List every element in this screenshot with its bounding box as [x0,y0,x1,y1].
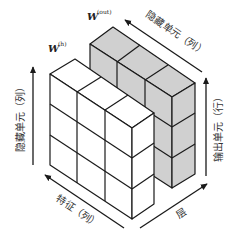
hidden-units-vertical-label: 隐藏单元（列） [14,82,26,152]
hidden-weight-superscript: (h) [58,40,67,47]
weight-cube-diagram: W (h) W (out) 隐藏单元（列） 隐藏单元（列） 输出单元（行） 特征… [0,0,241,244]
output-weight-label: W (out) [87,8,112,22]
hidden-units-diagonal-label: 隐藏单元（列） [144,8,209,57]
layers-label: 层 [174,206,188,221]
output-weight-superscript: (out) [97,8,112,15]
output-units-label: 输出单元（行） [212,92,224,162]
output-block-side-face [172,83,195,188]
hidden-weight-label: W (h) [48,40,67,54]
hidden-block-side-face [132,113,154,219]
